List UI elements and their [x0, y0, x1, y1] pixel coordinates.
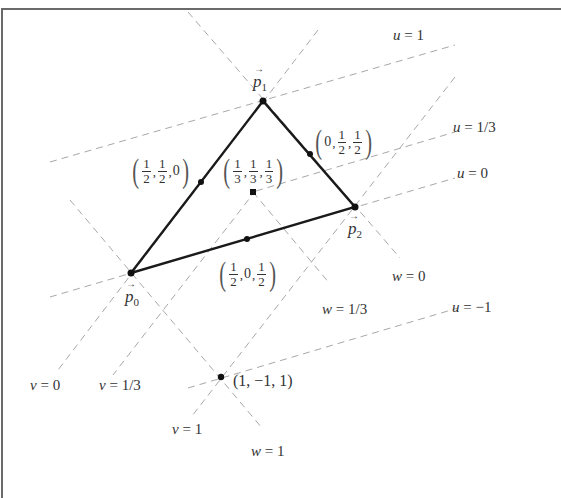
vertex-p0-dot	[128, 270, 135, 277]
zero: 0	[244, 267, 251, 281]
fraction: 13	[265, 157, 274, 186]
coord-label-outside-point: (1, −1, 1)	[233, 373, 293, 389]
vertex-p1-dot	[260, 98, 267, 105]
midpoint-p0-p1-dot	[198, 179, 204, 185]
coord-label-centroid: ( 13, 13, 13 )	[221, 154, 286, 188]
left-paren: (	[315, 125, 322, 159]
coord-label-zero-half-half: ( 0, 12, 12 )	[313, 125, 374, 159]
fraction: 13	[233, 157, 242, 186]
isoline-label-u-one-third: u = 1/3	[453, 120, 496, 135]
centroid-dot	[250, 189, 256, 195]
coord-label-half-zero-half: ( 12, 0, 12 )	[217, 257, 278, 291]
fraction: 13	[249, 157, 258, 186]
zero: 0	[173, 164, 180, 178]
vertex-subscript: 1	[262, 81, 268, 93]
coord-label-half-half-zero: ( 12, 12, 0 )	[130, 154, 191, 188]
vertex-subscript: 2	[357, 228, 363, 240]
vertex-letter: p	[348, 219, 357, 238]
left-paren: (	[132, 154, 139, 188]
right-paren: )	[365, 125, 372, 159]
zero: 0	[324, 135, 331, 149]
isoline-label-u-minus-1: u = −1	[452, 300, 491, 315]
isoline-label-v-1: v = 1	[172, 422, 202, 437]
fraction: 12	[257, 260, 266, 289]
fraction: 12	[229, 260, 238, 289]
right-paren: )	[182, 154, 189, 188]
vector-arrow-icon: →	[254, 64, 264, 74]
right-paren: )	[269, 257, 276, 291]
isoline-label-w-1: w = 1	[251, 444, 284, 459]
isoline-label-u-1: u = 1	[393, 28, 424, 43]
left-paren: (	[219, 257, 226, 291]
right-paren: )	[277, 154, 284, 188]
fraction: 12	[158, 157, 167, 186]
isoline-label-v-0: v = 0	[30, 378, 60, 393]
vertex-letter: p	[125, 287, 134, 306]
isoline-label-v-one-third: v = 1/3	[99, 378, 141, 393]
isoline-label-w-one-third: w = 1/3	[322, 302, 367, 317]
vertex-label-p0: →p0	[125, 288, 139, 308]
vertex-label-p2: →p2	[348, 220, 362, 240]
outside-point-dot	[218, 374, 224, 380]
vector-arrow-icon: →	[349, 211, 359, 221]
midpoint-p0-p2-dot	[244, 236, 250, 242]
isoline-label-u-0: u = 0	[457, 166, 488, 181]
fraction: 12	[338, 128, 347, 157]
isoline-u-minus-1	[188, 308, 458, 388]
isoline-u-1	[50, 45, 455, 162]
fraction: 12	[353, 128, 362, 157]
vertex-subscript: 0	[134, 296, 140, 308]
fraction: 12	[142, 157, 151, 186]
left-paren: (	[223, 154, 230, 188]
vector-arrow-icon: →	[126, 279, 136, 289]
isoline-label-w-0: w = 0	[392, 269, 425, 284]
vertex-letter: p	[253, 72, 262, 91]
isoline-w-1	[70, 200, 262, 428]
vertex-label-p1: →p1	[253, 73, 267, 93]
